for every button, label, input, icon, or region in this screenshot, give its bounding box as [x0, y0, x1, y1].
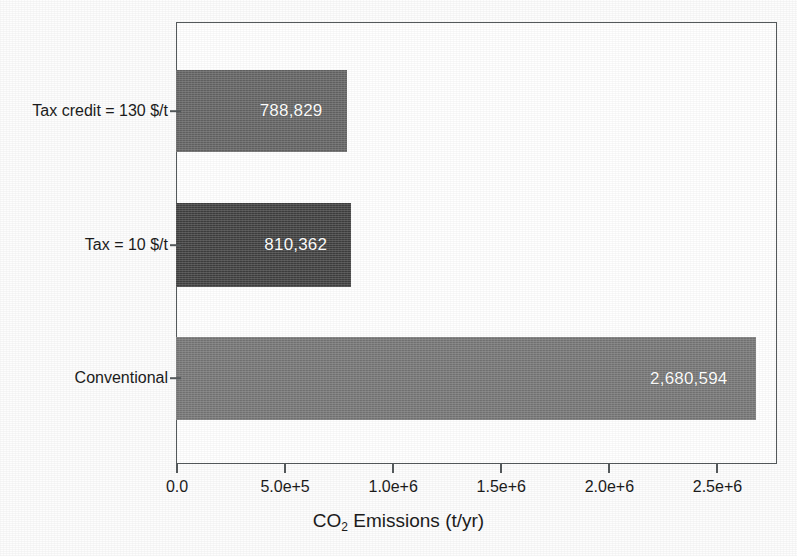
xtick-mark — [500, 464, 502, 473]
xtick-mark — [392, 464, 394, 473]
xtick-label: 2.5e+6 — [693, 478, 742, 496]
bars-layer: 788,829 810,362 2,680,594 — [176, 22, 777, 464]
xtick-label: 2.0e+6 — [585, 478, 634, 496]
xtick-label: 5.0e+5 — [260, 478, 309, 496]
bar-value-label: 2,680,594 — [650, 369, 755, 389]
x-axis-title: CO2 Emissions (t/yr) — [0, 510, 797, 532]
chart-figure: 788,829 810,362 2,680,594 Tax credit = 1… — [0, 0, 797, 556]
bar-conventional: 2,680,594 — [176, 337, 756, 420]
bar-value-label: 810,362 — [264, 235, 351, 255]
ycat-label-conventional: Conventional — [0, 369, 168, 387]
xtick-label: 0.0 — [166, 478, 188, 496]
ycat-label-tax-10: Tax = 10 $/t — [0, 236, 168, 254]
ytick-mark — [170, 377, 181, 379]
x-axis-title-subscript: 2 — [341, 520, 348, 534]
ytick-mark — [170, 110, 181, 112]
ycat-label-tax-credit-130: Tax credit = 130 $/t — [0, 102, 168, 120]
xtick-mark — [608, 464, 610, 473]
xtick-label: 1.5e+6 — [477, 478, 526, 496]
xtick-mark — [176, 464, 178, 473]
xtick-label: 1.0e+6 — [368, 478, 417, 496]
ytick-mark — [170, 244, 181, 246]
bar-value-label: 788,829 — [260, 101, 347, 121]
bar-tax-credit-130: 788,829 — [176, 70, 347, 152]
x-axis-title-pre: CO — [313, 510, 342, 531]
xtick-mark — [284, 464, 286, 473]
bar-tax-10: 810,362 — [176, 203, 351, 287]
x-axis-title-post: Emissions (t/yr) — [348, 510, 484, 531]
xtick-mark — [716, 464, 718, 473]
